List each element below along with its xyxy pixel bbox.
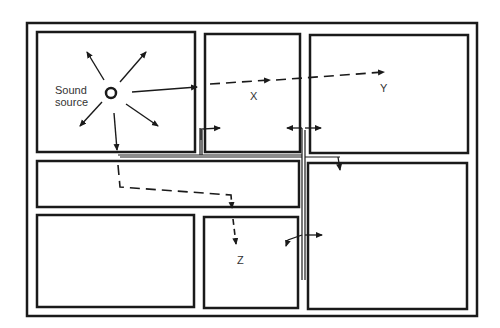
sound-source-icon [106,88,116,98]
arrow-up-left-icon [87,52,104,80]
room-y [310,35,468,153]
flank-z-icon [286,235,302,246]
building-outline [27,23,477,316]
sound-transmission-diagram: Sound source X Y Z [0,0,500,328]
radiating-arrows [80,52,158,126]
sound-source-label-line1: Sound [55,84,87,96]
path-corridor-dashed [118,165,232,208]
path-to-y-dashed [276,72,384,80]
path-to-z-dashed [233,219,236,244]
sound-source-label-line2: source [55,96,88,108]
label-x: X [250,90,258,102]
label-z: Z [237,254,244,266]
arrow-up-right-icon [120,52,146,82]
path-to-x-solid [132,87,197,92]
path-to-x-dashed [210,80,270,84]
room-z [204,217,298,308]
room-bottom-left [37,215,194,307]
corridor [37,161,299,207]
label-y: Y [380,82,388,94]
room-bottom-right [308,163,467,309]
arrow-down-right-icon [126,104,158,126]
flanking-arrows [201,128,340,246]
path-down-solid [114,113,117,150]
